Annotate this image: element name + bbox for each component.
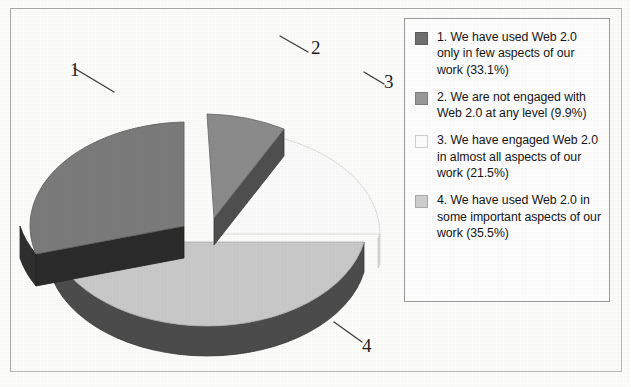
legend-swatch-1-icon (415, 32, 428, 45)
legend-label-3: 3. We have engaged Web 2.0 in almost all… (437, 132, 601, 181)
legend-label-1: 1. We have used Web 2.0 only in few aspe… (437, 29, 601, 78)
leader-line-1 (74, 68, 114, 92)
legend-item-4[interactable]: 4. We have used Web 2.0 in some importan… (413, 192, 601, 241)
pie-slice-callout-3: 3 (384, 72, 394, 91)
legend-item-1[interactable]: 1. We have used Web 2.0 only in few aspe… (413, 29, 601, 78)
legend-item-3[interactable]: 3. We have engaged Web 2.0 in almost all… (413, 132, 601, 181)
pie-slice-1[interactable] (20, 122, 184, 286)
leader-line-4 (334, 322, 362, 342)
pie-chart-plot-area: 1 2 3 4 (12, 10, 402, 370)
pie-chart-figure: 1 2 3 4 1. We have used Web 2.0 only in … (0, 0, 631, 387)
legend-label-2: 2. We are not engaged with Web 2.0 at an… (437, 89, 601, 122)
leader-line-3 (364, 72, 384, 84)
pie-slice-callout-2: 2 (311, 38, 321, 57)
legend-item-2[interactable]: 2. We are not engaged with Web 2.0 at an… (413, 89, 601, 122)
pie-slice-callout-4: 4 (362, 336, 372, 355)
legend-swatch-3-icon (415, 135, 428, 148)
legend-swatch-4-icon (415, 195, 428, 208)
legend-swatch-2-icon (415, 92, 428, 105)
legend-label-4: 4. We have used Web 2.0 in some importan… (437, 192, 601, 241)
chart-legend: 1. We have used Web 2.0 only in few aspe… (404, 18, 610, 302)
pie-slice-3-side (378, 234, 380, 268)
leader-line-2 (280, 36, 308, 52)
pie-slice-callout-1: 1 (70, 60, 80, 79)
